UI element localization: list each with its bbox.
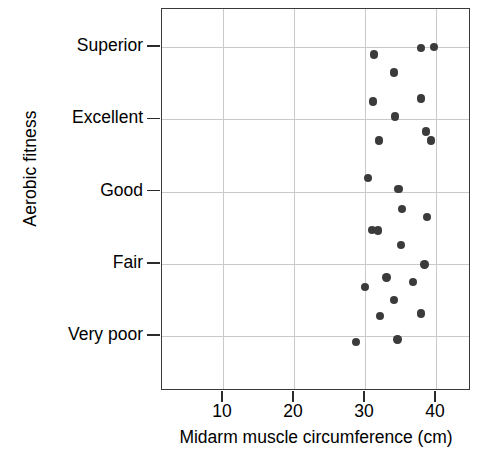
data-point bbox=[352, 338, 360, 346]
data-point bbox=[393, 335, 401, 343]
data-point bbox=[375, 136, 383, 144]
data-point bbox=[364, 174, 372, 182]
vertical-gridline bbox=[294, 9, 295, 389]
y-axis-tick-mark bbox=[147, 190, 160, 192]
x-axis-tick-mark bbox=[292, 391, 294, 402]
data-point bbox=[422, 127, 430, 135]
data-point bbox=[390, 68, 398, 76]
horizontal-gridline bbox=[162, 119, 469, 120]
horizontal-gridline bbox=[162, 336, 469, 337]
y-axis-tick-label: Good bbox=[3, 182, 143, 200]
data-point bbox=[417, 94, 425, 102]
data-point bbox=[397, 241, 405, 249]
data-point bbox=[394, 185, 402, 193]
data-point bbox=[376, 312, 384, 320]
y-axis-tick-label: Superior bbox=[3, 37, 143, 55]
data-point bbox=[369, 97, 377, 105]
x-axis-tick-label: 30 bbox=[334, 402, 394, 421]
y-axis-tick-label: Excellent bbox=[3, 109, 143, 127]
y-axis-tick-label: Very poor bbox=[3, 326, 143, 344]
x-axis-title: Midarm muscle circumference (cm) bbox=[161, 428, 471, 449]
data-point bbox=[382, 273, 390, 281]
data-point bbox=[391, 112, 399, 120]
data-point bbox=[417, 309, 425, 317]
x-axis-tick-mark bbox=[434, 391, 436, 402]
scatter-plot-figure: Aerobic fitness Very poorFairGoodExcelle… bbox=[0, 0, 483, 449]
data-point bbox=[398, 205, 406, 213]
x-axis-tick-mark bbox=[221, 391, 223, 402]
y-axis-tick-mark bbox=[147, 45, 160, 47]
y-axis-tick-mark bbox=[147, 262, 160, 264]
x-axis-tick-label: 40 bbox=[405, 402, 465, 421]
data-point bbox=[390, 296, 398, 304]
y-axis-tick-label: Fair bbox=[3, 254, 143, 272]
x-axis-tick-mark bbox=[363, 391, 365, 402]
y-axis-tick-mark bbox=[147, 334, 160, 336]
data-point bbox=[409, 278, 417, 286]
data-point bbox=[370, 50, 378, 58]
plot-area bbox=[161, 8, 470, 390]
data-point bbox=[423, 213, 431, 221]
data-point bbox=[427, 136, 435, 144]
data-point bbox=[361, 283, 369, 291]
y-axis-tick-mark bbox=[147, 118, 160, 120]
x-axis-tick-label: 10 bbox=[192, 402, 252, 421]
vertical-gridline bbox=[223, 9, 224, 389]
data-point bbox=[420, 260, 428, 268]
data-point bbox=[417, 44, 425, 52]
vertical-gridline bbox=[365, 9, 366, 389]
y-axis-tick-labels: Very poorFairGoodExcellentSuperior bbox=[0, 0, 143, 449]
horizontal-gridline bbox=[162, 192, 469, 193]
x-axis-tick-label: 20 bbox=[263, 402, 323, 421]
vertical-gridline bbox=[436, 9, 437, 389]
